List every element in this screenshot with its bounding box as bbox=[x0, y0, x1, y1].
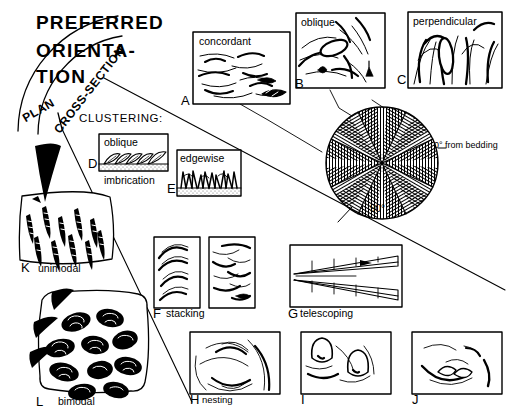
panel-d-caption: imbrication bbox=[104, 174, 155, 186]
panel-a-key: A bbox=[181, 93, 190, 108]
panel-k-key: K bbox=[21, 260, 30, 275]
panel-d-key: D bbox=[88, 156, 97, 171]
figure-title-line-3: TION bbox=[36, 66, 86, 88]
panel-h-key: H bbox=[190, 392, 199, 407]
panel-c-box-label: perpendicular bbox=[413, 15, 477, 27]
panel-j bbox=[412, 332, 502, 394]
panel-g-caption: telescoping bbox=[300, 307, 353, 319]
panel-l-key: L bbox=[36, 394, 43, 409]
panel-i bbox=[301, 332, 391, 394]
panel-f-caption: stacking bbox=[166, 307, 205, 319]
panel-h-caption: nesting bbox=[202, 394, 233, 405]
panel-k-caption: unimodal bbox=[38, 262, 81, 274]
panel-d-box-label: oblique bbox=[104, 136, 138, 148]
panel-e-box-label: edgewise bbox=[180, 152, 224, 164]
panel-i-key: I bbox=[301, 392, 305, 407]
panel-h-nesting bbox=[190, 332, 280, 394]
panel-g-key: G bbox=[288, 306, 298, 321]
figure-canvas: PREFERRED ORIENTA- TION PLAN CROSS-SECTI… bbox=[0, 0, 518, 419]
panel-b-key: B bbox=[295, 76, 304, 91]
clustering-heading: CLUSTERING: bbox=[79, 112, 163, 124]
panel-l-bimodal bbox=[29, 288, 148, 401]
figure-title-line-1: PREFERRED bbox=[36, 12, 164, 34]
panel-e-key: E bbox=[167, 181, 176, 196]
panel-j-key: J bbox=[412, 392, 419, 407]
panel-f-stacking bbox=[154, 237, 255, 308]
rose-zero-label: 0° from bedding bbox=[434, 140, 498, 150]
panel-b-box-label: oblique bbox=[301, 16, 335, 28]
panel-l-caption: bimodal bbox=[58, 395, 95, 407]
rose-ninety-label: 90° bbox=[370, 203, 385, 214]
panel-f-key: F bbox=[153, 306, 161, 321]
panel-g-telescoping bbox=[290, 245, 402, 307]
panel-c-key: C bbox=[397, 72, 406, 87]
panel-a-box-label: concordant bbox=[199, 35, 251, 47]
diagram-svg bbox=[0, 0, 518, 419]
